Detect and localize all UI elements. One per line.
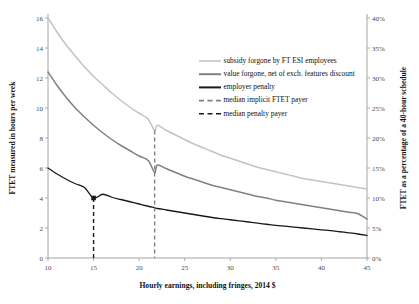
markers-group [91,196,96,201]
data-point-marker [91,196,96,201]
y-tick-label: 2 [40,225,44,233]
legend-label: subsidy forgone by FT ESI employees [224,56,337,65]
x-tick-label: 25 [181,264,189,272]
x-tick-label: 15 [90,264,98,272]
y-right-tick-label: 0% [372,255,382,263]
y-tick-label: 6 [40,165,44,173]
y-tick-label: 12 [36,75,44,83]
x-tick-label: 20 [136,264,144,272]
x-tick-label: 40 [318,264,326,272]
y-tick-label: 16 [36,15,44,23]
y-right-tick-label: 35% [372,45,385,53]
y-right-tick-label: 15% [372,165,385,173]
axes-group: 02468101214160%5%10%15%20%25%30%35%40%10… [36,14,385,272]
y-right-tick-label: 5% [372,225,382,233]
legend-group: subsidy forgone by FT ESI employeesvalue… [199,56,356,118]
y-axis-right-title: FTET as a percentage of a 40-hour schedu… [399,66,408,209]
legend-label: employer penalty [224,82,276,91]
x-tick-label: 45 [364,264,372,272]
y-right-tick-label: 30% [372,75,385,83]
y-tick-label: 4 [40,195,44,203]
series-line [48,18,367,189]
chart-canvas: 02468101214160%5%10%15%20%25%30%35%40%10… [0,0,419,304]
y-axis-title: FTET measured in hours per week [8,81,17,195]
x-tick-label: 35 [272,264,280,272]
x-tick-label: 30 [227,264,235,272]
y-tick-label: 14 [36,45,44,53]
figure-container: 02468101214160%5%10%15%20%25%30%35%40%10… [0,0,419,304]
y-tick-label: 0 [40,255,44,263]
legend-label: value forgone, net of exch. features dis… [224,69,356,78]
y-right-tick-label: 20% [372,135,385,143]
y-right-tick-label: 40% [372,15,385,23]
legend-label: median penalty payer [224,109,288,118]
x-tick-label: 10 [45,264,53,272]
series-group [48,18,367,236]
y-right-tick-label: 10% [372,195,385,203]
y-tick-label: 10 [36,105,44,113]
x-axis-title: Hourly earnings, including fringes, 2014… [139,281,275,290]
y-tick-label: 8 [40,135,44,143]
series-line [48,168,367,236]
y-right-tick-label: 25% [372,105,385,113]
legend-label: median implicit FTET payer [224,95,309,104]
